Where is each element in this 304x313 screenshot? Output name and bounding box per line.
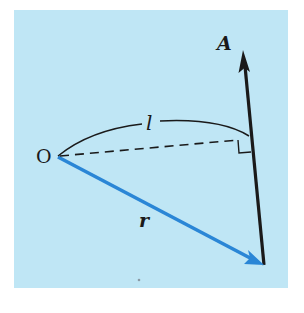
speck	[138, 279, 141, 282]
vector-r	[58, 157, 264, 265]
vector-A	[239, 50, 265, 265]
label-l: l	[146, 111, 152, 135]
label-r: r	[139, 209, 151, 231]
distance-arc-right	[160, 121, 249, 136]
right-angle-marker	[238, 140, 251, 153]
diagram: A O l r	[0, 0, 304, 313]
label-A: A	[215, 32, 232, 54]
distance-arc-left	[58, 124, 142, 156]
perpendicular-dashed-line	[60, 140, 238, 156]
label-O: O	[36, 145, 52, 167]
